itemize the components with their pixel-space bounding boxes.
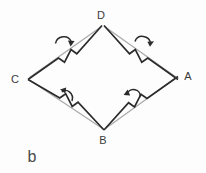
rotation-arrow-cd — [56, 37, 75, 47]
rotation-arrow-bc-head — [60, 88, 66, 94]
vertex-label-b: B — [99, 134, 106, 146]
figure-caption: b — [28, 148, 37, 165]
vertex-label-c: C — [11, 73, 19, 85]
rotation-arrow-ab — [124, 89, 141, 97]
vertex-label-a: A — [184, 70, 192, 82]
rotation-arrow-da — [135, 36, 154, 46]
rhombus-diagram: D A B C b — [0, 0, 206, 173]
rotation-arrow-cd-curve — [56, 37, 72, 44]
rotation-arrow-da-head — [147, 41, 154, 47]
edge-ab — [104, 77, 178, 131]
vertex-label-d: D — [97, 9, 105, 21]
edge-da — [104, 26, 178, 80]
figure-container: D A B C b — [0, 0, 206, 173]
edge-bc — [28, 80, 104, 131]
edge-cd — [28, 26, 102, 80]
